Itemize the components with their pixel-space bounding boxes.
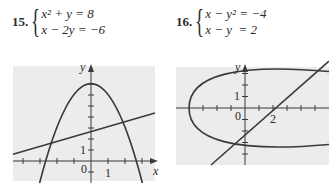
x-tick-label: 2 [270, 112, 276, 126]
x-axis-label: x [152, 164, 159, 178]
y-axis-label: y [234, 60, 241, 74]
graphs-canvas: y x 0 1 1 [0, 0, 329, 195]
x-tick-label: 1 [105, 166, 111, 180]
origin-label: 0 [235, 109, 241, 123]
graph-15: y x 0 1 1 [13, 60, 159, 183]
y-tick-label: 1 [80, 143, 86, 157]
origin-label: 0 [81, 162, 87, 176]
y-axis-label: y [79, 60, 86, 74]
graph-16: y 0 2 1 [176, 60, 329, 165]
y-tick-label: 1 [234, 89, 240, 103]
